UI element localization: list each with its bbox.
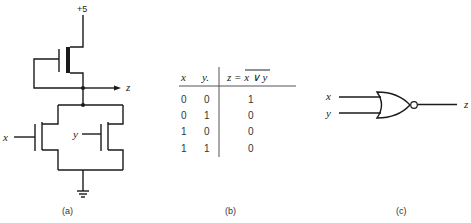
ground-icon bbox=[77, 191, 89, 197]
header-z-prefix: z = bbox=[226, 71, 244, 83]
cell-z: 0 bbox=[248, 126, 254, 137]
header-z-expression: x ∨ y bbox=[243, 71, 267, 83]
nor-gate-body bbox=[377, 92, 410, 118]
cell-x: 1 bbox=[181, 143, 187, 154]
table-row: 0 0 1 bbox=[181, 94, 254, 105]
nmos-nor-circuit: +5 z x y bbox=[2, 4, 131, 216]
cell-y: 1 bbox=[204, 143, 210, 154]
cell-x: 0 bbox=[181, 110, 187, 121]
cell-z: 0 bbox=[248, 110, 254, 121]
header-y: y. bbox=[201, 71, 209, 83]
gate-input-x-label: x bbox=[325, 90, 331, 102]
output-label: z bbox=[125, 81, 131, 93]
gate-output-label: z bbox=[463, 98, 469, 110]
x-input-label: x bbox=[2, 131, 8, 143]
caption-a: (a) bbox=[62, 206, 73, 216]
cell-z: 1 bbox=[248, 94, 254, 105]
cell-y: 0 bbox=[204, 94, 210, 105]
cell-x: 0 bbox=[181, 94, 187, 105]
truth-table: x y. z = x ∨ y 0 0 1 0 1 0 1 0 0 1 1 0 (… bbox=[179, 67, 296, 216]
table-row: 1 0 0 bbox=[181, 126, 254, 137]
table-row: 0 1 0 bbox=[181, 110, 254, 121]
supply-label: +5 bbox=[77, 4, 87, 14]
supply-wire bbox=[70, 15, 83, 47]
inversion-bubble bbox=[411, 102, 418, 109]
x-transistor-source bbox=[42, 150, 58, 170]
gate-input-y-label: y bbox=[325, 107, 331, 119]
load-drain-wire bbox=[70, 73, 83, 105]
cell-y: 1 bbox=[204, 110, 210, 121]
cell-x: 1 bbox=[181, 126, 187, 137]
table-row: 1 1 0 bbox=[181, 143, 254, 154]
header-z: z = x ∨ y bbox=[226, 71, 268, 83]
y-transistor-source bbox=[108, 150, 123, 170]
x-transistor-drain bbox=[42, 105, 58, 124]
y-input-label: y bbox=[72, 128, 78, 140]
figure: +5 z x y bbox=[0, 0, 471, 223]
y-transistor-drain bbox=[108, 105, 123, 124]
cell-y: 0 bbox=[204, 126, 210, 137]
nor-gate-symbol: x y z (c) bbox=[325, 90, 469, 216]
cell-z: 0 bbox=[248, 143, 254, 154]
output-arrow-icon bbox=[114, 86, 121, 91]
header-x: x bbox=[180, 71, 186, 83]
caption-b: (b) bbox=[225, 206, 236, 216]
caption-c: (c) bbox=[396, 206, 407, 216]
